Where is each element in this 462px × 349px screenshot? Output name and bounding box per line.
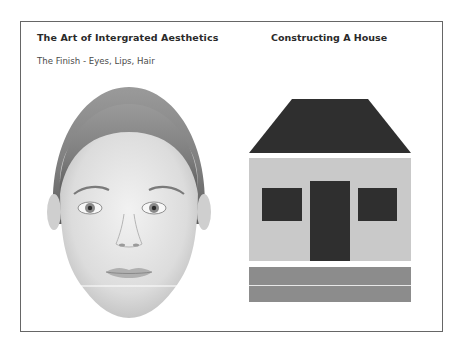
house-foundation (249, 267, 411, 302)
right-title: Constructing A House (271, 32, 387, 43)
house-window-right (358, 188, 397, 221)
face-skin (60, 124, 198, 318)
eye-left (78, 202, 102, 214)
face-portrait-image (44, 84, 214, 322)
eye-right (142, 202, 166, 214)
house-door (310, 181, 350, 261)
house-roof (249, 99, 411, 153)
left-title: The Art of Intergrated Aesthetics (37, 32, 218, 43)
left-subtitle: The Finish - Eyes, Lips, Hair (37, 56, 155, 66)
house-diagram (249, 99, 411, 303)
house-wall (249, 158, 411, 261)
house-window-left (262, 188, 302, 221)
foundation-guide-line (249, 285, 411, 286)
